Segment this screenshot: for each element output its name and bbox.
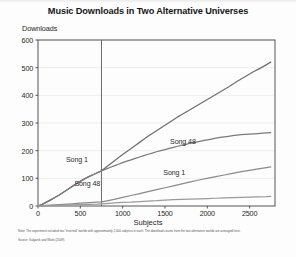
x-axis-label: Subjects (0, 218, 296, 227)
curve-label: Song 1 (66, 156, 88, 164)
data-series-group (38, 62, 271, 206)
x-tick-label: 0 (23, 209, 53, 218)
series-line-1 (38, 133, 271, 206)
y-tick-label: 400 (7, 91, 33, 100)
curve-label: Song 48 (74, 180, 100, 188)
x-tick-label: 2500 (235, 209, 265, 218)
series-line-0 (38, 62, 271, 206)
axis-ticks (36, 40, 250, 209)
y-tick-label: 200 (7, 147, 33, 156)
footnote-note: Note: The experiment included two "inver… (18, 229, 280, 233)
footnote-source: Source: Salganik and Watts (2009). (18, 238, 280, 242)
y-tick-label: 600 (7, 36, 33, 45)
y-tick-label: 500 (7, 64, 33, 73)
chart-figure: Music Downloads in Two Alternative Unive… (0, 0, 296, 257)
curve-label: Song 48 (170, 138, 196, 146)
x-tick-label: 1500 (150, 209, 180, 218)
curve-label: Song 1 (163, 169, 185, 177)
y-tick-label: 100 (7, 174, 33, 183)
x-tick-label: 500 (65, 209, 95, 218)
x-tick-label: 1000 (108, 209, 138, 218)
y-tick-label: 300 (7, 119, 33, 128)
x-tick-label: 2000 (192, 209, 222, 218)
series-line-3 (38, 196, 271, 206)
